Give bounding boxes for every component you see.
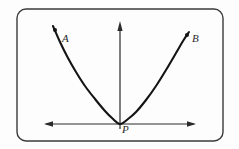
parabola-diagram bbox=[0, 0, 239, 149]
point-label-a: A bbox=[62, 33, 69, 44]
point-label-p: P bbox=[122, 124, 129, 135]
point-marker-b bbox=[185, 33, 189, 37]
point-marker-a bbox=[53, 28, 57, 32]
figure-container: A B P bbox=[0, 0, 239, 149]
point-label-b: B bbox=[192, 33, 199, 44]
